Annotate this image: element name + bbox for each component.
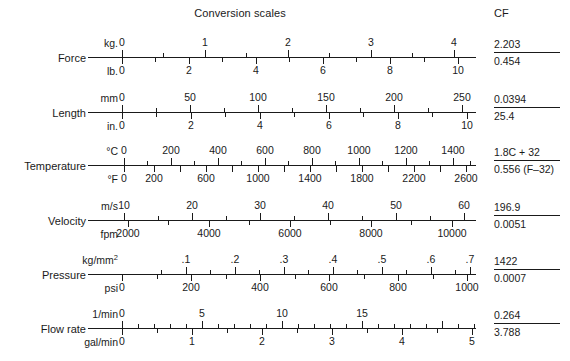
tick-label-temperature-top-3: 600: [256, 144, 274, 156]
tick-major-temperature-top-4: [312, 158, 313, 165]
tick-major-flow-rate-bottom-5: [472, 328, 473, 335]
tick-label-temperature-bottom-5: 1800: [350, 172, 373, 184]
tick-label-temperature-top-0: 0: [121, 144, 127, 156]
tick-label-velocity-bottom-1: 4000: [197, 227, 220, 239]
tick-minor-temperature-top-2: [241, 161, 242, 166]
tick-label-velocity-top-3: 40: [322, 199, 334, 211]
tick-minor-pressure-top-3: [308, 270, 309, 275]
unit-label-flow-rate-top: 1/min: [62, 308, 118, 320]
tick-minor-flow-rate-top-8: [298, 324, 299, 329]
tick-label-velocity-bottom-0: 2000: [116, 227, 139, 239]
tick-minor-flow-rate-top-6: [250, 324, 251, 329]
tick-label-pressure-top-0: .1: [182, 253, 191, 265]
tick-minor-force-top-1: [246, 53, 247, 58]
tick-minor-velocity-top-3: [362, 216, 363, 221]
tick-major-force-top-1: [205, 50, 206, 57]
cf-numerator-flow-rate: 0.264: [494, 308, 570, 322]
cf-denominator-force: 0.454: [494, 54, 570, 68]
tick-label-temperature-top-4: 800: [303, 144, 321, 156]
cf-cell-pressure: 14220.0007: [494, 254, 570, 285]
tick-minor-velocity-bottom-1: [249, 220, 250, 225]
tick-major-length-top-3: [326, 105, 327, 112]
tick-minor-length-bottom-2: [294, 112, 295, 117]
tick-label-force-top-4: 4: [451, 36, 457, 48]
tick-label-temperature-top-6: 1200: [394, 144, 417, 156]
tick-label-pressure-top-6: .7: [466, 253, 475, 265]
tick-major-pressure-bottom-0: [122, 274, 123, 281]
tick-label-temperature-bottom-1: 200: [145, 172, 163, 184]
tick-minor-velocity-top-4: [430, 216, 431, 221]
cf-numerator-temperature: 1.8C + 32: [494, 145, 570, 159]
tick-major-force-top-0: [122, 50, 123, 57]
scale-row-length: Lengthmm050100150200250in.0246810: [0, 88, 570, 136]
tick-major-length-bottom-2: [260, 112, 261, 119]
quantity-label-temperature: Temperature: [0, 160, 86, 172]
tick-label-temperature-bottom-4: 1400: [298, 172, 321, 184]
quantity-label-pressure: Pressure: [0, 269, 86, 281]
tick-label-flow-rate-bottom-1: 1: [189, 335, 195, 347]
tick-minor-flow-rate-top-10: [330, 324, 331, 329]
tick-minor-flow-rate-top-4: [218, 324, 219, 329]
tick-label-temperature-top-7: 1400: [441, 144, 464, 156]
scale-row-force: Forcekg.01234lb.0246810: [0, 33, 570, 81]
tick-major-pressure-bottom-2: [260, 274, 261, 281]
axis-line-temperature: [88, 165, 476, 166]
tick-minor-flow-rate-bottom-3: [367, 328, 368, 333]
tick-major-temperature-top-2: [218, 158, 219, 165]
cf-denominator-velocity: 0.0051: [494, 217, 570, 231]
tick-label-temperature-top-2: 400: [209, 144, 227, 156]
tick-minor-pressure-top-6: [455, 270, 456, 275]
tick-major-temperature-bottom-10: [388, 165, 389, 172]
tick-label-length-top-0: 0: [119, 91, 125, 103]
tick-major-length-top-1: [190, 105, 191, 112]
tick-major-length-top-4: [394, 105, 395, 112]
tick-minor-pressure-bottom-0: [157, 274, 158, 279]
tick-label-pressure-bottom-5: 1000: [455, 281, 478, 293]
tick-label-force-bottom-2: 4: [253, 64, 259, 76]
tick-label-flow-rate-top-2: 10: [276, 307, 288, 319]
tick-major-flow-rate-top-2: [282, 321, 283, 328]
tick-minor-flow-rate-top-11: [346, 324, 347, 329]
cf-denominator-length: 25.4: [494, 109, 570, 123]
tick-major-velocity-top-2: [260, 213, 261, 220]
tick-major-temperature-bottom-9: [362, 165, 363, 172]
tick-major-pressure-top-5: [431, 267, 432, 274]
tick-major-velocity-bottom-0: [128, 220, 129, 227]
tick-major-flow-rate-bottom-4: [402, 328, 403, 335]
cf-column-header: CF: [494, 7, 509, 19]
axis-line-force: [88, 57, 476, 58]
unit-label-pressure-top: kg/mm2: [62, 254, 118, 266]
tick-major-pressure-top-1: [235, 267, 236, 274]
tick-major-force-top-3: [371, 50, 372, 57]
tick-major-flow-rate-top-0: [122, 321, 123, 328]
tick-minor-length-bottom-0: [156, 112, 157, 117]
quantity-label-flow-rate: Flow rate: [0, 323, 86, 335]
tick-major-temperature-bottom-3: [206, 165, 207, 172]
tick-label-temperature-bottom-7: 2600: [454, 172, 477, 184]
tick-minor-length-top-4: [428, 108, 429, 113]
tick-major-length-bottom-4: [398, 112, 399, 119]
tick-minor-flow-rate-top-0: [138, 324, 139, 329]
quantity-label-force: Force: [0, 52, 86, 64]
tick-major-velocity-bottom-1: [209, 220, 210, 227]
tick-minor-flow-rate-bottom-2: [297, 328, 298, 333]
cf-cell-length: 0.039425.4: [494, 92, 570, 123]
unit-label-flow-rate-bottom: gal/min: [62, 336, 118, 348]
tick-minor-force-bottom-1: [222, 57, 223, 62]
tick-label-velocity-top-2: 30: [254, 199, 266, 211]
tick-label-flow-rate-top-3: 15: [356, 307, 368, 319]
tick-major-temperature-bottom-0: [124, 165, 125, 172]
cf-numerator-pressure: 1422: [494, 254, 570, 268]
tick-major-force-bottom-0: [122, 57, 123, 64]
tick-major-velocity-top-3: [328, 213, 329, 220]
tick-minor-flow-rate-top-1: [154, 324, 155, 329]
tick-minor-force-bottom-0: [155, 57, 156, 62]
tick-minor-length-top-2: [292, 108, 293, 113]
tick-label-force-bottom-1: 2: [186, 64, 192, 76]
cf-divider-temperature: [494, 160, 560, 161]
tick-major-temperature-bottom-13: [466, 165, 467, 172]
cf-divider-force: [494, 52, 560, 53]
tick-major-temperature-top-7: [453, 158, 454, 165]
tick-major-temperature-bottom-7: [310, 165, 311, 172]
tick-label-temperature-bottom-6: 2200: [402, 172, 425, 184]
